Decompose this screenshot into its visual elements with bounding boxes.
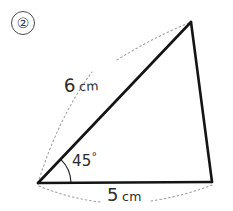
item-number-badge: ② bbox=[11, 11, 35, 35]
side-length-label-6cm: 6cm bbox=[64, 75, 100, 95]
triangle-side-hypotenuse bbox=[38, 22, 191, 183]
angle-label-45-degrees: 45° bbox=[72, 151, 97, 169]
side-dimension-arc-upper bbox=[117, 22, 191, 60]
angle-value: 45 bbox=[72, 152, 92, 170]
base-length-unit: cm bbox=[122, 189, 142, 204]
base-length-label-5cm: 5cm bbox=[107, 186, 142, 204]
figure-canvas bbox=[0, 0, 233, 211]
angle-marker-arc bbox=[61, 160, 71, 183]
base-dimension-arc-right bbox=[151, 185, 212, 201]
triangle-side-right bbox=[191, 22, 212, 182]
geometry-figure: ② 6cm 5cm 45° bbox=[0, 0, 233, 211]
triangle-side-base bbox=[38, 182, 212, 183]
base-length-value: 5 bbox=[107, 184, 119, 205]
side-length-value: 6 bbox=[63, 74, 76, 96]
side-length-unit: cm bbox=[79, 78, 99, 94]
degree-symbol: ° bbox=[92, 150, 98, 163]
base-dimension-arc-left bbox=[39, 186, 100, 202]
